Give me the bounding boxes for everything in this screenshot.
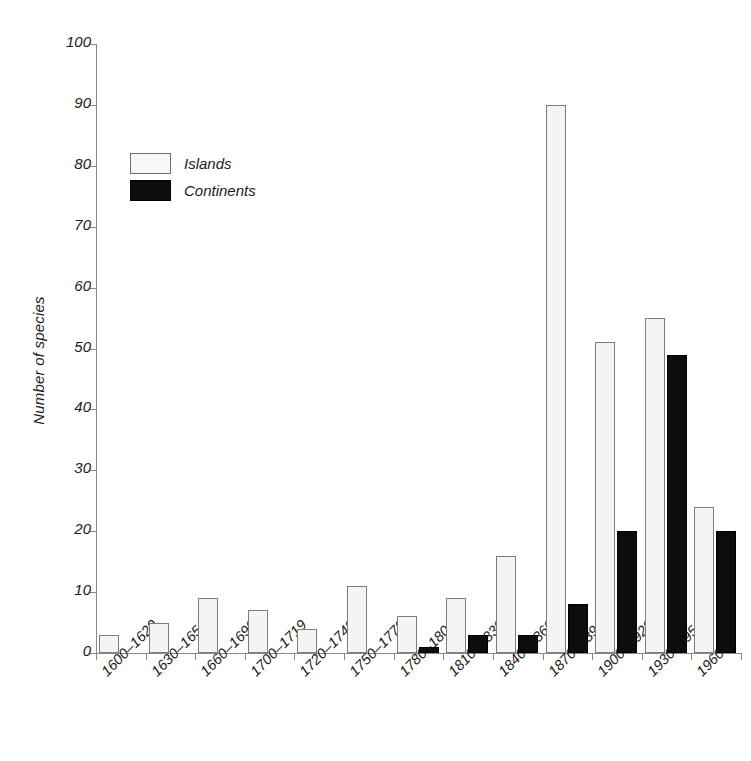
y-tick-label: 30 [74,459,91,476]
x-tick-mark [741,653,742,660]
bar-islands-1900–1929 [595,342,615,653]
legend-swatch-continents-icon [130,180,171,201]
bar-continents-1870–1899 [568,604,588,653]
y-tick-label: 20 [74,520,91,537]
y-tick-label: 70 [74,216,91,233]
y-tick-label: 80 [74,155,91,172]
x-tick-mark [592,653,593,660]
bar-islands-1660–1699 [198,598,218,653]
y-tick-label: 0 [83,642,91,659]
bar-islands-1810–1839 [446,598,466,653]
x-tick-mark [493,653,494,660]
y-tick-label: 40 [74,398,91,415]
legend-item-islands: Islands [130,150,256,177]
bar-continents-1900–1929 [617,531,637,653]
x-tick-mark [96,653,97,660]
species-bar-chart: Number of species 0102030405060708090100… [0,0,751,761]
y-tick-label: 50 [74,338,91,355]
bar-continents-1930–1959 [667,355,687,653]
bar-islands-1930–1959 [645,318,665,653]
bar-continents-1960– [716,531,736,653]
bar-continents-1840–1869 [518,635,538,653]
y-axis-line [96,44,97,653]
x-tick-mark [543,653,544,660]
x-tick-mark [294,653,295,660]
y-tick-label: 10 [74,581,91,598]
legend: Islands Continents [130,150,256,204]
x-tick-mark [245,653,246,660]
x-tick-mark [394,653,395,660]
bar-islands-1630–1659 [149,623,169,653]
bar-islands-1700–1719 [248,610,268,653]
x-tick-mark [443,653,444,660]
x-tick-mark [195,653,196,660]
x-tick-mark [691,653,692,660]
bar-continents-1810–1839 [468,635,488,653]
plot-area: 0102030405060708090100 1600–16291630–165… [96,44,741,653]
bar-islands-1840–1869 [496,556,516,653]
bar-islands-1960– [694,507,714,653]
legend-label-continents: Continents [184,182,256,199]
y-tick-label: 90 [74,94,91,111]
y-tick-label: 60 [74,277,91,294]
y-axis-title: Number of species [30,261,47,461]
bar-islands-1600–1629 [99,635,119,653]
y-tick-label: 100 [66,33,91,50]
x-tick-mark [344,653,345,660]
x-tick-mark [146,653,147,660]
legend-label-islands: Islands [184,155,232,172]
bar-islands-1750–1779 [347,586,367,653]
legend-item-continents: Continents [130,177,256,204]
bar-islands-1780–1809 [397,616,417,653]
legend-swatch-islands-icon [130,153,171,174]
bar-islands-1720–1749 [297,629,317,653]
bar-continents-1780–1809 [419,647,439,653]
x-tick-mark [642,653,643,660]
bar-islands-1870–1899 [546,105,566,653]
